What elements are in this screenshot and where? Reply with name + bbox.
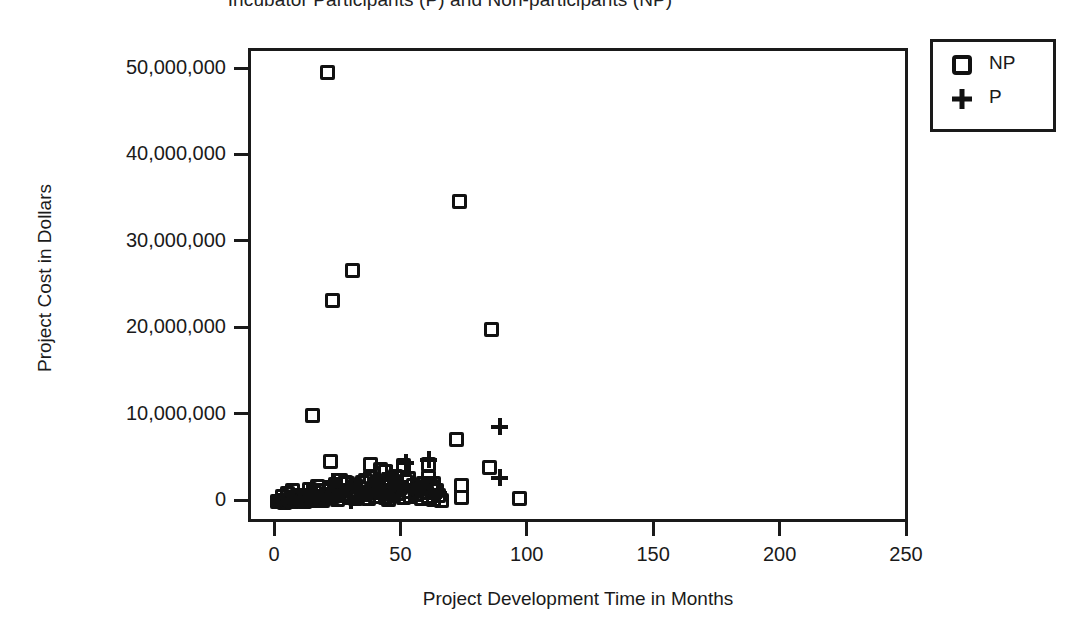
data-point-np (312, 489, 327, 504)
data-point-p (387, 472, 404, 489)
data-point-np (280, 486, 295, 501)
data-point-p (375, 485, 392, 502)
y-axis-tick-label: 30,000,000 (66, 230, 226, 250)
data-point-np (343, 490, 358, 505)
data-point-np (401, 471, 416, 486)
data-point-np (426, 476, 441, 491)
data-point-p (491, 418, 508, 435)
data-point-np (373, 485, 388, 500)
data-point-p (415, 477, 432, 494)
legend-label-np: NP (989, 50, 1015, 76)
data-point-np (330, 486, 345, 501)
data-point-np (297, 489, 312, 504)
data-point-p (420, 451, 437, 468)
data-point-np (371, 477, 386, 492)
y-axis-tick-mark (234, 153, 248, 156)
data-point-np (482, 460, 497, 475)
data-point-np (285, 494, 300, 509)
data-point-np (320, 65, 335, 80)
data-point-np (282, 492, 297, 507)
data-point-np (270, 494, 285, 509)
x-axis-tick-label: 200 (735, 543, 825, 565)
data-point-np (330, 492, 345, 507)
y-axis-tick-label: 0 (66, 489, 226, 509)
open-square-icon (949, 52, 975, 78)
data-point-np (310, 479, 325, 494)
data-point-p (397, 454, 414, 471)
x-axis-tick-mark (399, 522, 402, 536)
data-point-np (452, 194, 467, 209)
x-axis-tick-mark (273, 522, 276, 536)
plot-data-area (251, 51, 905, 519)
data-point-np (421, 470, 436, 485)
data-point-np (381, 472, 396, 487)
data-point-np (396, 458, 411, 473)
data-point-np (300, 492, 315, 507)
data-point-np (338, 475, 353, 490)
data-point-np (287, 490, 302, 505)
data-point-np (388, 469, 403, 484)
data-point-p (332, 482, 349, 499)
data-point-np (431, 488, 446, 503)
data-point-np (290, 492, 305, 507)
x-axis-title: Project Development Time in Months (248, 588, 908, 610)
data-point-np (340, 476, 355, 491)
data-point-np (280, 493, 295, 508)
data-point-np (449, 432, 464, 447)
data-point-p (425, 488, 442, 505)
data-point-np (421, 457, 436, 472)
y-axis-tick-label-text: 0 (66, 489, 226, 509)
data-point-np (361, 491, 376, 506)
y-axis-tick-label-text: 10,000,000 (66, 403, 226, 423)
y-axis-tick-label: 40,000,000 (66, 143, 226, 163)
data-point-np (335, 488, 350, 503)
legend-label-p: P (989, 84, 1002, 110)
y-axis-title: Project Cost in Dollars (35, 68, 55, 488)
data-point-p (299, 483, 316, 500)
data-point-np (376, 479, 391, 494)
data-point-np (434, 493, 449, 508)
data-point-np (325, 293, 340, 308)
data-point-p (365, 475, 382, 492)
data-point-np (285, 483, 300, 498)
data-point-np (411, 482, 426, 497)
x-axis-tick-mark (905, 522, 908, 536)
x-axis-tick-label: 150 (608, 543, 698, 565)
y-axis-tick-label: 10,000,000 (66, 403, 226, 423)
data-point-np (328, 484, 343, 499)
data-point-np (338, 483, 353, 498)
data-point-np (348, 491, 363, 506)
data-point-np (318, 490, 333, 505)
data-point-np (348, 478, 363, 493)
data-point-np (355, 475, 370, 490)
data-point-np (381, 492, 396, 507)
legend-item-p: P (933, 82, 1053, 116)
data-point-np (378, 490, 393, 505)
data-point-np (454, 490, 469, 505)
data-point-np (366, 483, 381, 498)
data-point-p (319, 487, 336, 504)
data-point-np (305, 493, 320, 508)
data-point-np (406, 478, 421, 493)
data-point-p (342, 492, 359, 509)
y-axis-tick-mark (234, 499, 248, 502)
data-point-np (323, 480, 338, 495)
data-point-np (396, 490, 411, 505)
data-point-p (352, 488, 369, 505)
data-point-np (277, 495, 292, 510)
data-point-p (390, 478, 407, 495)
data-point-np (391, 486, 406, 501)
data-point-np (512, 491, 527, 506)
data-point-np (272, 494, 287, 509)
data-point-np (484, 322, 499, 337)
data-point-p (281, 491, 298, 508)
data-point-np (378, 464, 393, 479)
data-point-np (315, 493, 330, 508)
y-axis-tick-label: 50,000,000 (66, 57, 226, 77)
y-axis-tick-label: 20,000,000 (66, 316, 226, 336)
data-point-p (380, 490, 397, 507)
data-point-p (306, 486, 323, 503)
x-axis-tick-label: 250 (861, 543, 951, 565)
data-point-np (290, 488, 305, 503)
x-axis-tick-mark (652, 522, 655, 536)
